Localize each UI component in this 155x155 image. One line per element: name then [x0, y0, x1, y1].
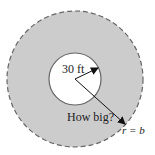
concentric-circle-diagram: 30 ft How big? r = b	[0, 0, 155, 155]
inner-radius-label: 30 ft	[62, 62, 85, 76]
outer-radius-label: r = b	[122, 124, 145, 136]
question-label: How big?	[67, 110, 114, 124]
